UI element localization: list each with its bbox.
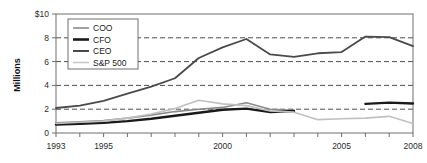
y-axis-title: Millions [12,58,22,92]
y-tick-label: 4 [44,80,49,90]
x-tick-label: 1993 [47,141,66,151]
legend-label-ceo: CEO [93,46,112,56]
y-tick-label: 8 [44,33,49,43]
x-tick-label: 1995 [94,141,113,151]
legend-label-coo: COO [93,23,113,33]
x-tick-label: 2000 [213,141,232,151]
legend-label-s-p-500: S&P 500 [93,58,127,68]
series-line-cfo-late [365,103,413,104]
chart-legend: COOCFOCEOS&P 500 [68,19,138,69]
line-chart: $1086420 19931995200020052008 Millions C… [0,0,427,163]
y-tick-label: 0 [44,128,49,138]
chart-background [0,0,427,163]
legend-label-cfo: CFO [93,35,111,45]
x-tick-label: 2008 [404,141,423,151]
y-tick-label: 6 [44,57,49,67]
y-tick-label: $10 [35,9,49,19]
chart-container: $1086420 19931995200020052008 Millions C… [0,0,427,163]
x-tick-label: 2005 [332,141,351,151]
y-tick-label: 2 [44,104,49,114]
